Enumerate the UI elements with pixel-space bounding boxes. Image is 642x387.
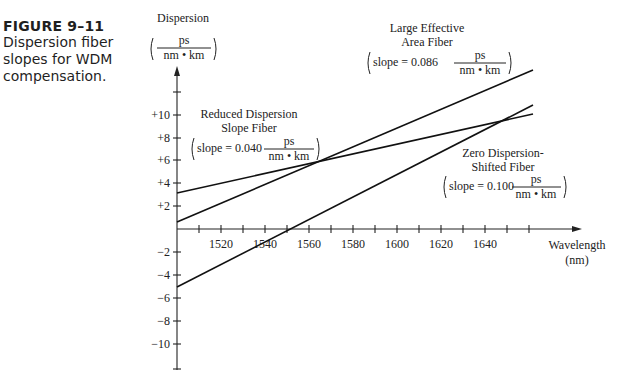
x-axis-arrow-icon bbox=[572, 226, 582, 232]
svg-text:Zero Dispersion-: Zero Dispersion- bbox=[462, 146, 544, 160]
svg-text:Large Effective: Large Effective bbox=[390, 21, 465, 35]
svg-text:+4: +4 bbox=[157, 176, 170, 190]
svg-text:+10: +10 bbox=[151, 108, 170, 122]
svg-text:−4: −4 bbox=[157, 268, 170, 282]
svg-text:ps: ps bbox=[284, 134, 295, 148]
y-tick-labels: +10 +8 +6 +4 +2 −2 −4 −6 −8 −10 bbox=[151, 108, 170, 351]
unit-numerator: ps bbox=[179, 33, 190, 47]
svg-text:1560: 1560 bbox=[297, 237, 321, 251]
svg-text:+2: +2 bbox=[157, 199, 170, 213]
svg-text:slope = 0.086: slope = 0.086 bbox=[373, 55, 438, 69]
y-axis bbox=[173, 66, 181, 370]
svg-text:Shifted Fiber: Shifted Fiber bbox=[472, 160, 535, 174]
svg-text:ps: ps bbox=[475, 48, 486, 62]
x-axis-title: Wavelength bbox=[548, 238, 605, 252]
svg-text:Slope Fiber: Slope Fiber bbox=[221, 121, 277, 135]
svg-text:Area Fiber: Area Fiber bbox=[401, 35, 453, 49]
y-axis-arrow-icon bbox=[174, 66, 180, 76]
svg-text:1580: 1580 bbox=[341, 237, 365, 251]
svg-text:slope = 0.100: slope = 0.100 bbox=[449, 179, 514, 193]
svg-text:1620: 1620 bbox=[429, 237, 453, 251]
y-axis-unit: ps nm • km bbox=[151, 33, 216, 62]
dispersion-chart: Dispersion ps nm • km +10 +8 +6 +4 +2 −2… bbox=[0, 0, 642, 387]
svg-text:+6: +6 bbox=[157, 153, 170, 167]
svg-text:ps: ps bbox=[531, 172, 542, 186]
svg-text:Reduced Dispersion: Reduced Dispersion bbox=[201, 107, 298, 121]
annotation-zdsf: Zero Dispersion- Shifted Fiber slope = 0… bbox=[444, 146, 566, 201]
annotation-rds: Reduced Dispersion Slope Fiber slope = 0… bbox=[192, 107, 319, 163]
svg-text:nm • km: nm • km bbox=[269, 149, 311, 163]
svg-text:+8: +8 bbox=[157, 131, 170, 145]
svg-text:−10: −10 bbox=[151, 337, 170, 351]
svg-text:1520: 1520 bbox=[209, 237, 233, 251]
svg-text:slope = 0.040: slope = 0.040 bbox=[197, 141, 262, 155]
annotation-leaf: Large Effective Area Fiber slope = 0.086… bbox=[368, 21, 511, 77]
svg-text:1640: 1640 bbox=[473, 237, 497, 251]
unit-denominator: nm • km bbox=[164, 48, 206, 62]
svg-text:−8: −8 bbox=[157, 314, 170, 328]
svg-text:nm • km: nm • km bbox=[516, 187, 558, 201]
y-axis-title: Dispersion bbox=[157, 11, 209, 25]
svg-text:1540: 1540 bbox=[253, 237, 277, 251]
x-axis bbox=[177, 225, 582, 233]
svg-text:−6: −6 bbox=[157, 291, 170, 305]
x-axis-unit: (nm) bbox=[565, 253, 588, 267]
svg-text:1600: 1600 bbox=[385, 237, 409, 251]
svg-text:−2: −2 bbox=[157, 245, 170, 259]
svg-text:nm • km: nm • km bbox=[460, 63, 502, 77]
